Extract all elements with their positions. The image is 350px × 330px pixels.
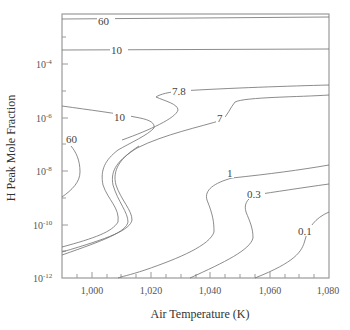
contour-chart: 60 10 7.8 7 10 60 1 0.3 0.1 10-4 10-6 10…	[0, 0, 350, 330]
contour-label-0.3: 0.3	[247, 188, 261, 200]
contour-label-7.8: 7.8	[172, 85, 186, 97]
x-tick-label: 1,080	[317, 285, 340, 296]
x-tick-labels: 1,000 1,020 1,040 1,060 1,080	[81, 285, 340, 296]
x-tick-label: 1,060	[259, 285, 282, 296]
x-tick-label: 1,040	[199, 285, 222, 296]
contour-label-7: 7	[217, 112, 223, 124]
y-tick-label: 10-4	[36, 58, 52, 70]
y-tick-label: 10-6	[36, 112, 52, 124]
x-tick-label: 1,000	[81, 285, 104, 296]
contour-labels: 60 10 7.8 7 10 60 1 0.3 0.1	[66, 15, 316, 237]
contour-0.1	[255, 212, 329, 278]
contour-7.8	[122, 85, 329, 140]
contour-lines	[62, 17, 329, 278]
contour-10-top	[62, 49, 329, 50]
contour-7-inner	[62, 146, 139, 252]
y-tick-label: 10-8	[36, 165, 52, 177]
plot-frame	[62, 14, 329, 278]
contour-label-10-top: 10	[111, 44, 123, 56]
x-axis-label: Air Temperature (K)	[151, 307, 250, 321]
contour-label-1: 1	[227, 167, 233, 179]
contour-label-10-mid: 10	[114, 111, 126, 123]
contour-label-60-top: 60	[98, 15, 110, 27]
y-tick-label: 10-10	[33, 219, 53, 231]
x-tick-label: 1,020	[140, 285, 163, 296]
contour-label-60-left: 60	[66, 133, 78, 145]
contour-1	[118, 165, 329, 278]
y-tick-labels: 10-4 10-6 10-8 10-10 10-12	[33, 58, 53, 284]
y-axis-label: H Peak Mole Fraction	[4, 95, 18, 201]
x-axis-ticks	[77, 272, 314, 278]
contour-10-mid	[62, 106, 154, 247]
contour-label-0.1: 0.1	[298, 225, 312, 237]
y-tick-label: 10-12	[33, 272, 53, 284]
